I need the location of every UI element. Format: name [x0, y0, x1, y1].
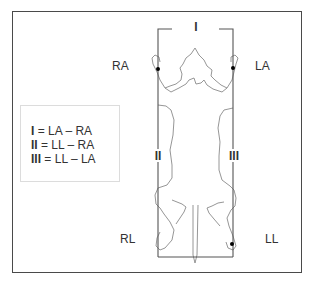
lead-label-ii: II: [155, 149, 162, 163]
electrode-ra-dot: [156, 67, 160, 71]
electrode-la-dot: [231, 66, 235, 70]
legend-formula: = LA – RA: [38, 124, 92, 138]
animal-rear-left: [172, 200, 186, 224]
electrode-ll-dot: [230, 242, 234, 246]
lead-label-iii: III: [229, 149, 239, 163]
lead-legend: I = LA – RA II = LL – RA III = LL – LA: [20, 105, 120, 182]
electrode-label-rl: RL: [120, 232, 136, 246]
lead-label-i: I: [194, 20, 197, 34]
electrode-label-ra: RA: [112, 59, 129, 73]
animal-hip-right: [226, 190, 236, 250]
animal-rear-right: [207, 202, 224, 226]
electrode-label-la: LA: [255, 59, 270, 73]
legend-formula: = LL – RA: [41, 138, 94, 152]
animal-torso-left: [158, 105, 174, 188]
animal-head: [165, 48, 227, 92]
animal-tail: [193, 205, 198, 263]
animal-outline: [152, 48, 238, 263]
legend-lead-name: III: [31, 152, 41, 166]
lead-i-wire-right: [219, 29, 233, 257]
legend-row-lead-i: I = LA – RA: [31, 124, 119, 138]
legend-row-lead-iii: III = LL – LA: [31, 152, 119, 166]
legend-row-lead-ii: II = LL – RA: [31, 138, 119, 152]
legend-lead-name: I: [31, 124, 34, 138]
electrode-label-ll: LL: [265, 232, 279, 246]
lead-wires: [158, 29, 233, 257]
legend-formula: = LL – LA: [44, 152, 95, 166]
legend-lead-name: II: [31, 138, 38, 152]
